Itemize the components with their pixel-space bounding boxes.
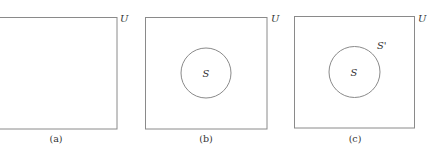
universe-label-c: U (418, 13, 427, 24)
caption-b: (b) (199, 133, 213, 144)
venn-diagram-figure: U (a) U S (b) U S S' (c) (0, 0, 427, 151)
universe-label-b: U (271, 13, 280, 24)
panel-c: U S S' (c) (295, 13, 427, 144)
panel-a: U (a) (0, 13, 129, 144)
complement-label-c: S' (377, 40, 387, 51)
set-label-s-c: S (351, 67, 358, 78)
universe-label-a: U (120, 13, 129, 24)
universe-box-a (0, 18, 117, 130)
set-label-s-b: S (203, 68, 210, 79)
panel-b: U S (b) (146, 13, 281, 144)
caption-c: (c) (349, 133, 362, 144)
caption-a: (a) (49, 133, 62, 144)
